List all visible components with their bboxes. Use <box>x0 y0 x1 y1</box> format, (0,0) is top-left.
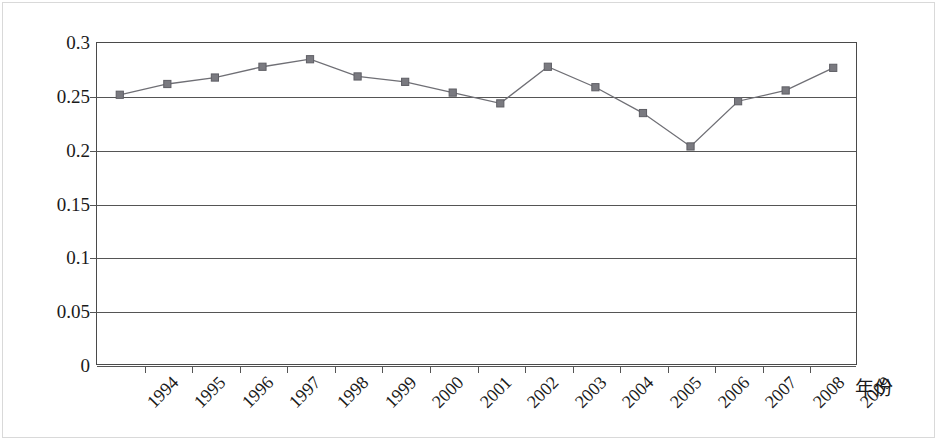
x-axis-tick-labels: 1994199519961997199819992000200120022003… <box>0 0 941 444</box>
x-axis-tick-label: 2007 <box>762 373 800 411</box>
x-axis-tick-label: 2005 <box>667 373 705 411</box>
x-axis-tick-label: 2000 <box>429 373 467 411</box>
x-axis-tick-label: 1999 <box>381 373 419 411</box>
x-axis-tick-label: 2008 <box>809 373 847 411</box>
x-axis-tick-label: 2004 <box>619 373 657 411</box>
x-axis-tick-label: 1995 <box>191 373 229 411</box>
x-axis-tick-label: 1996 <box>238 373 276 411</box>
x-axis-tick-label: 2006 <box>714 373 752 411</box>
x-axis-tick-label: 2003 <box>571 373 609 411</box>
x-axis-tick-label: 2001 <box>476 373 514 411</box>
x-axis-tick-label: 1994 <box>143 373 181 411</box>
x-axis-tick-label: 1997 <box>286 373 324 411</box>
chart-figure: 0.30.250.20.150.10.050 19941995199619971… <box>0 0 941 444</box>
x-axis-tick-label: 1998 <box>334 373 372 411</box>
x-axis-tick-label: 2002 <box>524 373 562 411</box>
x-axis-title: 年份 <box>855 379 893 398</box>
